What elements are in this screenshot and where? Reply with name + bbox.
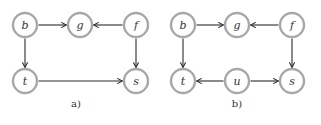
node-s: s xyxy=(280,69,304,93)
node-b: b xyxy=(13,13,37,37)
node-label: s xyxy=(289,75,295,88)
node-f: f xyxy=(280,13,304,37)
node-s: s xyxy=(124,69,148,93)
node-g: g xyxy=(68,13,92,37)
node-label: s xyxy=(133,75,139,88)
node-t: t xyxy=(171,69,195,93)
node-label: u xyxy=(233,75,240,88)
causal-graph-diagram: bgftsa) bgftusb) xyxy=(0,0,321,125)
node-label: t xyxy=(181,75,186,88)
node-b: b xyxy=(171,13,195,37)
panel-caption: b) xyxy=(232,98,242,109)
panel-b: bgftusb) xyxy=(171,13,304,109)
node-label: b xyxy=(21,19,28,32)
panel-a: bgftsa) xyxy=(13,13,148,109)
node-label: g xyxy=(233,19,240,32)
node-u: u xyxy=(225,69,249,93)
node-label: g xyxy=(76,19,83,32)
node-f: f xyxy=(124,13,148,37)
node-t: t xyxy=(13,69,37,93)
node-label: t xyxy=(23,75,28,88)
panel-caption: a) xyxy=(71,98,81,109)
node-label: b xyxy=(179,19,186,32)
node-g: g xyxy=(225,13,249,37)
